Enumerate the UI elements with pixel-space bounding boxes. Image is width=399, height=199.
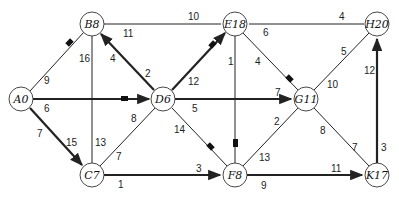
weight-label: 8 bbox=[131, 113, 137, 124]
weight-label: 7 bbox=[275, 87, 281, 98]
edge-C-D bbox=[100, 108, 155, 166]
node-C7: C7 bbox=[80, 163, 104, 187]
edge-F-G bbox=[243, 108, 298, 166]
graph-svg: 9 6 7 15 10 11 16 13 4 2 12 5 7 8 7 14 1… bbox=[0, 0, 399, 199]
node-label: C7 bbox=[84, 169, 99, 182]
node-F8: F8 bbox=[223, 163, 247, 187]
edge-A-B bbox=[30, 32, 84, 91]
node-G11: G11 bbox=[294, 87, 318, 111]
node-label: H20 bbox=[364, 18, 389, 31]
weight-label: 9 bbox=[261, 180, 267, 191]
weight-label: 13 bbox=[95, 137, 107, 148]
node-label: A0 bbox=[13, 93, 29, 106]
block-marker bbox=[208, 40, 216, 49]
weight-label: 16 bbox=[79, 53, 91, 64]
weight-label: 5 bbox=[341, 46, 347, 57]
weight-label: 2 bbox=[274, 116, 280, 127]
weight-label: 6 bbox=[44, 103, 50, 114]
node-B8: B8 bbox=[80, 12, 104, 36]
weight-label: 10 bbox=[327, 79, 339, 90]
block-marker bbox=[65, 38, 73, 47]
node-A0: A0 bbox=[9, 87, 33, 111]
weight-label: 14 bbox=[174, 124, 186, 135]
weight-label: 3 bbox=[381, 142, 387, 153]
weight-label: 1 bbox=[118, 179, 124, 190]
weight-label: 8 bbox=[320, 125, 326, 136]
node-label: B8 bbox=[83, 18, 99, 31]
edge-D-B bbox=[101, 34, 154, 90]
weight-label: 10 bbox=[188, 11, 200, 22]
block-marker bbox=[121, 96, 128, 101]
node-H20: H20 bbox=[364, 12, 389, 36]
weight-label: 4 bbox=[339, 11, 345, 22]
edge-G-H bbox=[314, 33, 369, 90]
network-diagram: 9 6 7 15 10 11 16 13 4 2 12 5 7 8 7 14 1… bbox=[0, 0, 399, 199]
node-label: K17 bbox=[365, 169, 388, 182]
node-E18: E18 bbox=[223, 12, 247, 36]
weight-label: 7 bbox=[352, 142, 358, 153]
weight-label: 11 bbox=[123, 28, 134, 39]
block-marker bbox=[233, 139, 238, 147]
edges bbox=[30, 24, 377, 175]
weight-label: 4 bbox=[110, 53, 116, 64]
edge-D-F bbox=[172, 108, 227, 166]
node-K17: K17 bbox=[365, 163, 389, 187]
weight-label: 7 bbox=[37, 128, 43, 139]
weight-label: 4 bbox=[255, 56, 261, 67]
weight-label: 13 bbox=[259, 152, 271, 163]
weight-label: 12 bbox=[188, 76, 200, 87]
edge-G-K bbox=[314, 108, 369, 166]
node-label: G11 bbox=[295, 93, 318, 106]
node-D6: D6 bbox=[151, 87, 175, 111]
weight-label: 15 bbox=[66, 137, 78, 148]
weight-label: 7 bbox=[116, 151, 122, 162]
weight-label: 6 bbox=[263, 27, 269, 38]
weight-label: 12 bbox=[364, 65, 376, 76]
weight-label: 5 bbox=[192, 103, 198, 114]
block-marker bbox=[285, 74, 293, 83]
weight-label: 3 bbox=[196, 163, 202, 174]
node-label: E18 bbox=[223, 18, 246, 31]
node-label: F8 bbox=[227, 169, 243, 182]
weight-label: 2 bbox=[145, 68, 151, 79]
weight-label: 11 bbox=[331, 163, 342, 174]
weight-label: 9 bbox=[44, 75, 50, 86]
block-marker bbox=[206, 142, 214, 151]
weight-label: 1 bbox=[228, 56, 234, 67]
node-label: D6 bbox=[154, 93, 171, 106]
